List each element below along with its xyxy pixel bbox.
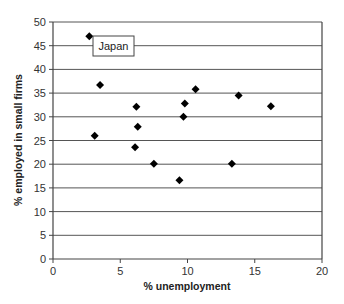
annotation-label: Japan: [99, 40, 129, 52]
scatter-chart: 05101520253035404550 05101520 Japan % un…: [0, 0, 344, 304]
data-point-marker: [85, 32, 93, 40]
data-point-marker: [131, 143, 139, 151]
data-point-marker: [181, 100, 189, 108]
y-tick-label: 25: [34, 135, 46, 147]
x-tick-label: 5: [117, 265, 123, 277]
y-tick-label: 45: [34, 40, 46, 52]
y-tick-label: 50: [34, 16, 46, 28]
x-tick-label: 20: [316, 265, 328, 277]
data-point-marker: [150, 160, 158, 168]
x-tick-label: 15: [249, 265, 261, 277]
x-axis-title: % unemployment: [144, 280, 231, 292]
y-tick-label: 35: [34, 87, 46, 99]
data-point-marker: [91, 132, 99, 140]
y-tick-label: 20: [34, 158, 46, 170]
data-point-marker: [175, 176, 183, 184]
data-point-marker: [134, 123, 142, 131]
x-tick-label: 10: [181, 265, 193, 277]
data-point-marker: [96, 81, 104, 89]
annotations: Japan: [93, 36, 134, 56]
y-axis-ticks: 05101520253035404550: [34, 16, 53, 265]
x-tick-label: 0: [50, 265, 56, 277]
data-point-marker: [228, 160, 236, 168]
y-tick-label: 15: [34, 182, 46, 194]
y-tick-label: 40: [34, 63, 46, 75]
data-point-marker: [132, 103, 140, 111]
data-point-marker: [192, 85, 200, 93]
data-point-marker: [267, 102, 275, 110]
y-tick-label: 10: [34, 206, 46, 218]
y-tick-label: 0: [40, 253, 46, 265]
y-tick-label: 5: [40, 229, 46, 241]
y-tick-label: 30: [34, 111, 46, 123]
x-axis-ticks: 05101520: [50, 259, 328, 277]
data-point-marker: [179, 113, 187, 121]
y-axis-title: % employed in small firms: [12, 74, 24, 206]
